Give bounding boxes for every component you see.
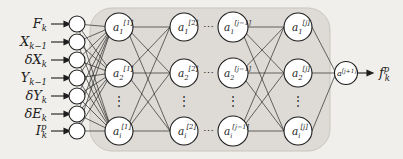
input-label-I-k-p: Ipk [35, 122, 47, 140]
input-node-1[interactable] [69, 16, 85, 32]
horizontal-ellipsis-row-3: ⋯ [203, 125, 214, 138]
input-node-5[interactable] [69, 88, 85, 104]
output-label-f-k-p: fpk [378, 64, 390, 83]
input-node-2[interactable] [69, 34, 85, 50]
hidden-layer-1-group: a1[1] a2[1] ai[1] ⋮ [105, 13, 134, 145]
input-node-3[interactable] [69, 52, 85, 68]
vertical-ellipsis-layer-j: ⋮ [292, 94, 304, 108]
hidden-layer-j-group: a1[j] a2[j] ai[j] ⋮ [284, 13, 312, 145]
input-node-6[interactable] [69, 106, 85, 122]
output-node-group: a[j+1] [335, 62, 358, 85]
horizontal-ellipsis-row-2: ⋯ [203, 67, 214, 80]
horizontal-ellipsis-row-1: ⋯ [203, 21, 214, 34]
vertical-ellipsis-layer-2: ⋮ [178, 94, 190, 108]
input-node-4[interactable] [69, 70, 85, 86]
vertical-ellipsis-layer-jm1: ⋮ [227, 94, 239, 108]
neural-network-diagram: Fk Xk−1 δXk Yk−1 δYk δEk Ipk a1[1] a2[1] [0, 0, 403, 159]
input-node-7[interactable] [69, 123, 85, 139]
hidden-layer-2-group: a1[2] a2[2] ai[2] ⋮ [170, 13, 199, 145]
vertical-ellipsis-layer-1: ⋮ [113, 94, 125, 108]
hidden-layer-jm1-group: a1[j−1] a2[j−1] ai[j−1] ⋮ [218, 12, 252, 146]
